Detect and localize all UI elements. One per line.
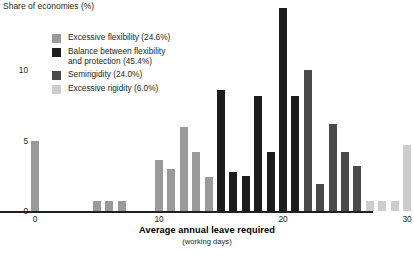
bar bbox=[378, 201, 386, 211]
bar bbox=[291, 96, 299, 211]
bar bbox=[118, 201, 126, 211]
bar bbox=[304, 70, 312, 211]
plot-area bbox=[35, 0, 407, 211]
bar bbox=[105, 201, 113, 211]
y-tick-label: 10 bbox=[10, 65, 28, 75]
bar bbox=[353, 166, 361, 211]
bar bbox=[279, 8, 287, 211]
x-axis-title: Average annual leave required bbox=[0, 225, 414, 235]
x-tick-label: 30 bbox=[402, 214, 411, 224]
bar bbox=[192, 152, 200, 211]
x-axis-caption: Average annual leave required (working d… bbox=[0, 225, 414, 246]
bar bbox=[267, 152, 275, 211]
bar bbox=[403, 145, 411, 211]
bar bbox=[167, 169, 175, 211]
bar bbox=[217, 90, 225, 211]
x-tick-label: 0 bbox=[33, 214, 38, 224]
bar bbox=[155, 160, 163, 211]
bar bbox=[341, 152, 349, 211]
bar bbox=[229, 172, 237, 211]
x-tick-label: 10 bbox=[154, 214, 163, 224]
bar bbox=[180, 127, 188, 211]
bar bbox=[31, 141, 39, 211]
bar bbox=[93, 201, 101, 211]
y-tick-label: 5 bbox=[10, 136, 28, 146]
bar-chart-figure: Share of economies (%) Excessive flexibi… bbox=[0, 0, 414, 256]
bar bbox=[391, 201, 399, 211]
bar bbox=[366, 201, 374, 211]
x-tick-label: 20 bbox=[278, 214, 287, 224]
bar bbox=[254, 96, 262, 211]
bar bbox=[242, 176, 250, 211]
bar bbox=[316, 184, 324, 211]
x-axis-line bbox=[0, 211, 373, 213]
bar bbox=[329, 124, 337, 211]
x-axis-subtitle: (working days) bbox=[0, 237, 414, 246]
bar bbox=[205, 177, 213, 211]
